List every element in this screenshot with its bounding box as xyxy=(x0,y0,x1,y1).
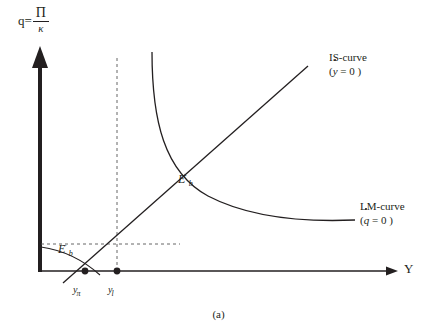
lm-curve-condition: (q = 0 ) xyxy=(360,215,405,226)
y-axis-label-lhs: q= xyxy=(18,14,32,27)
is-condition-rest: = 0 xyxy=(340,65,354,77)
lm-condition-close: ) xyxy=(389,214,393,226)
lm-condition-rest: = 0 xyxy=(372,214,386,226)
overdot-icon xyxy=(334,59,336,61)
eq-low-superscript: − xyxy=(62,241,67,250)
eq-low-subscript: b xyxy=(69,249,73,258)
lm-curve-name: LM-curve xyxy=(360,201,405,212)
y-axis xyxy=(32,46,48,272)
q-dot-variable: q xyxy=(364,215,370,226)
x-tick-label-y-l: yl xyxy=(108,285,115,298)
is-curve-condition: (y = 0 ) xyxy=(329,66,367,77)
y-dot-variable: y xyxy=(333,66,338,77)
tick-ypi-subscript: π xyxy=(76,289,80,298)
y-axis-label-fraction: Π κ xyxy=(33,6,49,34)
x-tick-label-y-pi: yπ xyxy=(73,285,81,298)
overdot-icon xyxy=(365,208,367,210)
y-axis-label: q= Π κ xyxy=(18,6,49,34)
lm-curve-label: LM-curve (q = 0 ) xyxy=(360,201,405,226)
marker-y-pi xyxy=(82,268,89,275)
equilibrium-low-label: E−b xyxy=(58,242,74,258)
equilibrium-high-label: E+b xyxy=(178,172,194,188)
lm-curve-path xyxy=(152,52,355,221)
figure-container: q= Π κ IS-curve (y = 0 ) LM-curve (q = 0… xyxy=(0,0,437,333)
is-curve-name: IS-curve xyxy=(329,52,367,63)
is-curve-label: IS-curve (y = 0 ) xyxy=(329,52,367,77)
x-axis-name: Y xyxy=(404,262,413,275)
tick-yl-subscript: l xyxy=(111,289,113,298)
y-axis-label-numerator: Π xyxy=(33,6,49,21)
is-condition-var: y xyxy=(333,65,338,77)
eq-high-subscript: b xyxy=(189,179,193,188)
x-axis xyxy=(40,267,398,276)
eq-high-superscript: + xyxy=(182,171,187,180)
figure-caption: (a) xyxy=(0,309,437,320)
is-condition-close: ) xyxy=(358,65,362,77)
y-axis-label-denominator: κ xyxy=(38,22,43,34)
economics-phase-diagram xyxy=(0,0,437,333)
marker-y-l xyxy=(114,268,121,275)
lm-condition-var: q xyxy=(364,214,370,226)
